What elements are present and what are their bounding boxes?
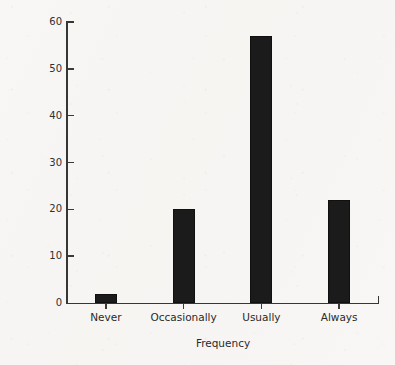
bar: [250, 36, 272, 303]
y-axis-tick-label: 40: [36, 111, 62, 121]
x-axis-spine: [66, 303, 379, 305]
y-axis-tick-label: 30: [36, 158, 62, 168]
plot-area: [67, 22, 378, 303]
y-axis-tick-label: 50: [36, 64, 62, 74]
bar: [328, 200, 350, 303]
y-axis-tick-label: 20: [36, 204, 62, 214]
y-axis-top-cap: [66, 21, 73, 23]
bar-chart-figure: Percentage of Police Services 0102030405…: [0, 0, 395, 365]
x-axis-tick: [261, 304, 262, 309]
x-axis-title: Frequency: [67, 337, 379, 349]
y-axis-spine: [66, 21, 68, 304]
bar: [173, 209, 195, 303]
x-axis-tick-label: Always: [279, 311, 395, 323]
y-axis-tick-label: 0: [36, 298, 62, 308]
x-axis-tick: [338, 304, 339, 309]
y-axis-tick-label: 60: [36, 17, 62, 27]
y-axis-tick-label: 10: [36, 251, 62, 261]
x-axis-tick: [105, 304, 106, 309]
x-axis-right-cap: [378, 296, 380, 304]
x-axis-tick: [183, 304, 184, 309]
